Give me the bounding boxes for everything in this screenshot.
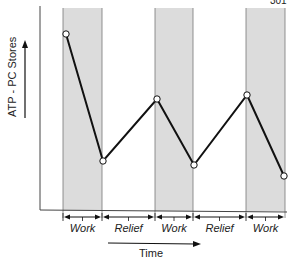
arrow-right-icon — [239, 215, 245, 220]
phase-label: Work — [70, 222, 96, 234]
arrow-up-icon — [22, 40, 28, 48]
arrow-right-icon — [95, 215, 101, 220]
phase-interval: Work — [63, 213, 101, 234]
arrow-left-icon — [103, 215, 109, 220]
phase-interval: Relief — [193, 213, 245, 234]
arrow-right-icon — [193, 241, 201, 247]
phase-interval: Relief — [102, 213, 154, 234]
data-point — [63, 31, 69, 37]
phase-label: Relief — [205, 222, 234, 234]
data-point — [154, 96, 160, 102]
x-axis-label: Time — [139, 247, 163, 259]
x-axis-label-group: Time — [108, 241, 201, 259]
data-point — [191, 162, 197, 168]
arrow-left-icon — [194, 215, 200, 220]
arrow-right-icon — [148, 215, 154, 220]
arrow-right-icon — [278, 215, 284, 220]
arrow-left-icon — [247, 215, 253, 220]
work-band — [155, 8, 193, 211]
work-band — [63, 8, 102, 211]
phase-label: Relief — [114, 222, 143, 234]
data-point — [244, 92, 250, 98]
page-number: 301 — [270, 0, 287, 6]
arrow-right-icon — [186, 215, 192, 220]
phase-label: Work — [253, 222, 279, 234]
work-phase-bands — [63, 8, 285, 218]
phase-interval: Work — [155, 213, 192, 234]
data-point — [281, 173, 287, 179]
arrow-left-icon — [64, 215, 70, 220]
work-band — [246, 8, 285, 211]
phase-label: Work — [161, 222, 187, 234]
arrow-left-icon — [156, 215, 162, 220]
phase-interval-arrows: WorkReliefWorkReliefWork — [63, 213, 284, 234]
y-axis-label-group: ATP - PC Stores — [6, 36, 28, 118]
data-point — [100, 158, 106, 164]
y-axis-label: ATP - PC Stores — [6, 36, 18, 117]
phase-interval: Work — [246, 213, 284, 234]
chart: WorkReliefWorkReliefWork ATP - PC Stores… — [0, 0, 298, 266]
